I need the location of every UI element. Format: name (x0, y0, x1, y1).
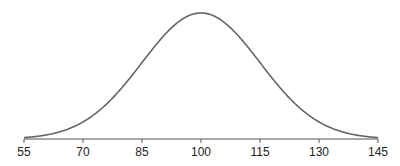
normal-curve-line (24, 13, 378, 138)
x-tick-label: 70 (76, 145, 90, 159)
x-tick-label: 130 (309, 145, 329, 159)
x-tick-label: 100 (191, 145, 211, 159)
x-tick-label: 115 (250, 145, 269, 159)
x-tick-label: 145 (368, 145, 388, 159)
x-axis-ticks: 557085100115130145 (17, 139, 388, 159)
bell-curve-chart: 557085100115130145 (0, 0, 400, 166)
x-tick-label: 55 (17, 145, 31, 159)
x-tick-label: 85 (135, 145, 149, 159)
